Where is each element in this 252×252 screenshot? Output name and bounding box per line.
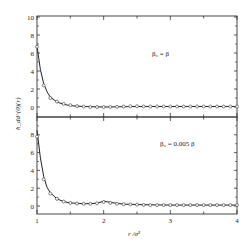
data-point-marker xyxy=(89,106,92,109)
top-panel-annotation: β₀ = β xyxy=(152,50,169,58)
data-point-marker xyxy=(182,105,185,108)
data-point-marker xyxy=(36,135,39,138)
y-axis-label: h_dd^(0)(r) xyxy=(14,97,22,130)
data-point-marker xyxy=(196,204,199,207)
chart-figure: 0246810 β₀ = β 02468 1234 β₀ = 0.005 β r… xyxy=(0,0,252,252)
data-point-marker xyxy=(209,204,212,207)
data-point-marker xyxy=(49,192,52,195)
bottom-panel-x-ticks: 1234 xyxy=(35,117,239,225)
bottom-panel-sim-markers xyxy=(36,135,239,207)
data-point-marker xyxy=(96,202,99,205)
data-point-marker xyxy=(229,204,232,207)
data-point-marker xyxy=(82,105,85,108)
data-point-marker xyxy=(102,106,105,109)
data-point-marker xyxy=(109,201,112,204)
data-point-marker xyxy=(222,204,225,207)
bottom-panel-theory-line xyxy=(37,130,237,205)
data-point-marker xyxy=(156,105,159,108)
data-point-marker xyxy=(222,105,225,108)
data-point-marker xyxy=(116,105,119,108)
data-point-marker xyxy=(69,201,72,204)
top-panel-sim-markers xyxy=(36,45,239,108)
data-point-marker xyxy=(156,204,159,207)
data-point-marker xyxy=(56,100,59,103)
bottom-panel-annotation: β₀ = 0.005 β xyxy=(160,140,195,148)
data-point-marker xyxy=(62,102,65,105)
y-tick-label: 8 xyxy=(31,32,35,40)
data-point-marker xyxy=(162,204,165,207)
data-point-marker xyxy=(136,203,139,206)
data-point-marker xyxy=(176,105,179,108)
data-point-marker xyxy=(56,197,59,200)
y-tick-label: 8 xyxy=(31,131,35,139)
data-point-marker xyxy=(169,204,172,207)
data-point-marker xyxy=(62,200,65,203)
data-point-marker xyxy=(196,105,199,108)
data-point-marker xyxy=(109,106,112,109)
y-tick-label: 2 xyxy=(31,86,35,94)
top-panel: 0246810 β₀ = β xyxy=(27,14,239,118)
data-point-marker xyxy=(49,97,52,100)
data-point-marker xyxy=(76,202,79,205)
data-point-marker xyxy=(116,202,119,205)
data-point-marker xyxy=(136,105,139,108)
x-tick-label: 2 xyxy=(102,217,106,225)
top-panel-y-ticks: 0246810 xyxy=(27,14,237,112)
bottom-panel: 02468 1234 β₀ = 0.005 β xyxy=(31,117,240,225)
y-tick-label: 0 xyxy=(31,104,35,112)
data-point-marker xyxy=(189,105,192,108)
data-point-marker xyxy=(236,105,239,108)
y-tick-label: 10 xyxy=(27,14,35,22)
y-tick-label: 4 xyxy=(31,68,35,76)
data-point-marker xyxy=(129,105,132,108)
data-point-marker xyxy=(216,105,219,108)
x-axis-label: r /σ³ xyxy=(128,230,141,238)
x-tick-label: 4 xyxy=(235,217,239,225)
data-point-marker xyxy=(122,105,125,108)
y-tick-label: 6 xyxy=(31,50,35,58)
x-tick-label: 3 xyxy=(169,217,173,225)
data-point-marker xyxy=(162,105,165,108)
data-point-marker xyxy=(36,45,39,48)
data-point-marker xyxy=(82,202,85,205)
top-panel-x-ticks xyxy=(37,16,237,117)
top-panel-theory-line xyxy=(37,46,237,107)
y-tick-label: 4 xyxy=(31,167,35,175)
x-tick-label: 1 xyxy=(35,217,39,225)
data-point-marker xyxy=(96,106,99,109)
y-tick-label: 2 xyxy=(31,185,35,193)
data-point-marker xyxy=(142,203,145,206)
y-tick-label: 0 xyxy=(31,203,35,211)
data-point-marker xyxy=(69,104,72,107)
data-point-marker xyxy=(189,204,192,207)
data-point-marker xyxy=(169,105,172,108)
y-tick-label: 6 xyxy=(31,149,35,157)
data-point-marker xyxy=(42,178,45,181)
bottom-panel-y-ticks: 02468 xyxy=(31,126,238,211)
data-point-marker xyxy=(176,204,179,207)
bottom-panel-frame xyxy=(37,117,237,214)
data-point-marker xyxy=(209,105,212,108)
data-point-marker xyxy=(149,105,152,108)
data-point-marker xyxy=(149,204,152,207)
data-point-marker xyxy=(42,84,45,87)
data-point-marker xyxy=(142,105,145,108)
data-point-marker xyxy=(122,203,125,206)
data-point-marker xyxy=(216,204,219,207)
data-point-marker xyxy=(89,202,92,205)
data-point-marker xyxy=(182,204,185,207)
data-point-marker xyxy=(102,200,105,203)
data-point-marker xyxy=(236,204,239,207)
data-point-marker xyxy=(229,105,232,108)
data-point-marker xyxy=(202,105,205,108)
top-panel-frame xyxy=(37,16,237,117)
data-point-marker xyxy=(76,105,79,108)
data-point-marker xyxy=(129,203,132,206)
data-point-marker xyxy=(202,204,205,207)
